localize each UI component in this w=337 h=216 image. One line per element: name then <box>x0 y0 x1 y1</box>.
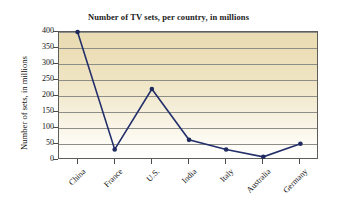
chart-figure: Number of TV sets, per country, in milli… <box>0 0 337 216</box>
y-axis-title-container: Number of sets, in millions <box>13 33 27 173</box>
y-axis-tick-label: 50 <box>28 138 54 147</box>
chart-title: Number of TV sets, per country, in milli… <box>0 12 337 22</box>
y-axis-tick-label: 200 <box>28 90 54 99</box>
y-axis-tick-label: 250 <box>28 74 54 83</box>
data-point-marker <box>75 30 80 35</box>
y-axis-tick-labels: 050100150200250300350400 <box>26 31 54 159</box>
y-axis-tick-label: 300 <box>28 58 54 67</box>
y-axis-tick-label: 150 <box>28 106 54 115</box>
x-axis-tick-labels: ChinaFranceU.S.IndiaItalyAustraliaGerman… <box>58 159 318 216</box>
y-axis-tick-label: 0 <box>28 154 54 163</box>
data-point-marker <box>187 138 192 143</box>
data-point-marker <box>298 141 303 146</box>
data-series-layer <box>59 32 319 160</box>
plot-area <box>58 31 318 159</box>
data-point-marker <box>224 147 229 152</box>
y-axis-tick-label: 350 <box>28 42 54 51</box>
y-axis-tick-label: 100 <box>28 122 54 131</box>
data-point-marker <box>112 147 117 152</box>
y-axis-tick-label: 400 <box>28 26 54 35</box>
data-point-marker <box>150 87 155 92</box>
